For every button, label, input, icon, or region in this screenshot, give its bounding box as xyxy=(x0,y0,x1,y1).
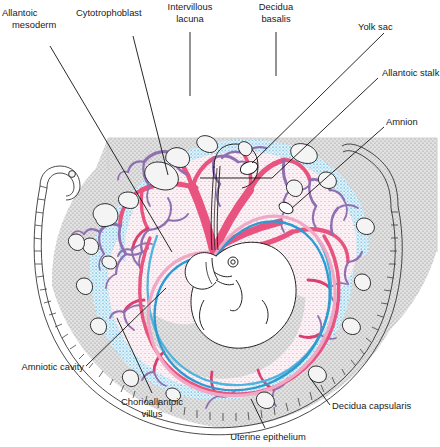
label-allantoic-mesoderm-line1: Allantoic xyxy=(2,7,38,18)
label-chorioallantoic-villus-line1: Chorioallantoic xyxy=(121,396,183,407)
label-amniotic-cavity: Amniotic cavity xyxy=(21,361,84,372)
label-allantoic-stalk: Allantoic stalk xyxy=(382,67,440,78)
diagram-canvas: Allantoic mesoderm Cytotrophoblast Inter… xyxy=(0,0,440,447)
label-allantoic-mesoderm-line2: mesoderm xyxy=(12,19,56,30)
gland-dot-1 xyxy=(69,171,76,178)
label-intervillous-lacuna-line1: Intervillous xyxy=(168,1,213,12)
label-decidua-basalis-line1: Decidua xyxy=(259,1,294,12)
label-amnion: Amnion xyxy=(386,116,418,127)
label-intervillous-lacuna-line2: lacuna xyxy=(176,13,204,24)
placenta-diagram-figure: Allantoic mesoderm Cytotrophoblast Inter… xyxy=(0,0,440,447)
label-cytotrophoblast: Cytotrophoblast xyxy=(76,7,142,18)
label-decidua-capsularis: Decidua capsularis xyxy=(332,400,412,411)
label-decidua-basalis-line2: basalis xyxy=(261,13,290,24)
label-uterine-epithelium: Uterine epithelium xyxy=(230,431,306,442)
label-yolk-sac: Yolk sac xyxy=(358,21,393,32)
embryo-eye-inner xyxy=(231,260,235,264)
label-chorioallantoic-villus-line2: villus xyxy=(142,408,163,419)
